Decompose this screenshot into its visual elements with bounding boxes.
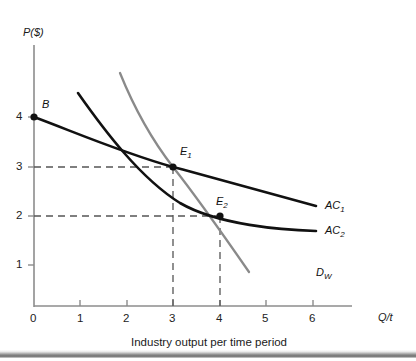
x-tick-label-6: 6 <box>309 313 315 325</box>
point-label-e2: E2 <box>216 196 228 210</box>
point-label-b: B <box>42 99 49 110</box>
x-tick-label-3: 3 <box>169 313 175 325</box>
curve-demand-world <box>120 73 249 272</box>
curve-label-dw: DW <box>316 267 332 281</box>
point-label-e1-subscript: 1 <box>187 151 191 160</box>
y-tick-label-4: 4 <box>16 111 22 123</box>
chart-canvas <box>0 0 416 361</box>
curve-ac2 <box>78 93 316 231</box>
economics-chart-figure: P($) 4 3 2 1 0 1 2 3 4 5 6 Q/t Industry … <box>0 0 416 361</box>
y-axis-title: P($) <box>23 27 44 38</box>
point-marker-e1 <box>169 163 176 170</box>
point-label-e2-subscript: 2 <box>223 201 227 210</box>
x-tick-label-1: 1 <box>77 313 83 325</box>
x-tick-label-2: 2 <box>123 313 129 325</box>
curve-label-dw-text: D <box>316 266 324 278</box>
curve-label-dw-subscript: W <box>324 272 332 281</box>
point-label-e1: E1 <box>180 146 192 160</box>
point-marker-e2 <box>216 212 223 219</box>
curve-label-ac1-subscript: 1 <box>340 205 344 214</box>
x-axis-caption: Industry output per time period <box>131 337 287 349</box>
y-tick-label-3: 3 <box>16 161 22 173</box>
y-axis-ticks <box>28 117 34 265</box>
y-tick-label-2: 2 <box>16 210 22 222</box>
curve-label-ac2-text: AC <box>325 224 340 236</box>
bottom-divider-bar <box>0 350 416 358</box>
y-tick-label-1: 1 <box>16 259 22 271</box>
x-tick-label-5: 5 <box>262 313 268 325</box>
curve-label-ac2-subscript: 2 <box>340 230 344 239</box>
curve-label-ac2: AC2 <box>325 225 345 239</box>
curve-label-ac1: AC1 <box>325 200 345 214</box>
curve-ac1 <box>34 117 316 206</box>
point-marker-b <box>30 113 37 120</box>
x-tick-label-0: 0 <box>30 313 36 325</box>
x-tick-label-4: 4 <box>216 313 222 325</box>
x-axis-title: Q/t <box>378 312 393 323</box>
curve-label-ac1-text: AC <box>325 199 340 211</box>
x-axis-ticks <box>80 300 313 306</box>
